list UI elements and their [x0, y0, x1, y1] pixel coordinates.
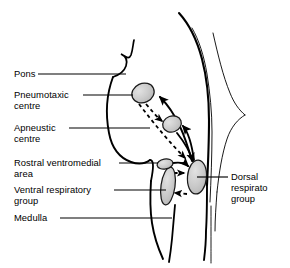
pneumotaxic-centre-shape [129, 80, 158, 107]
nuclei-group [129, 80, 208, 206]
brainstem-outline-group [107, 13, 245, 263]
label-ventral-line2: group [14, 195, 38, 207]
spinal-canal-left-outline [204, 185, 207, 260]
label-apneustic-line1: Apneustic [14, 122, 56, 134]
arrow-dorsal-to-ventral [175, 193, 187, 194]
label-pons: Pons [14, 68, 36, 80]
label-pneumotaxic-line1: Pneumotaxic [14, 89, 69, 101]
arrow-rostral-to-dorsal-solid [173, 163, 188, 166]
label-pneumotaxic-line2: centre [14, 100, 40, 112]
cerebellum-upper-outline [213, 33, 245, 115]
diagram-canvas [0, 0, 290, 268]
label-apneustic-line2: centre [14, 133, 40, 145]
arrow-pneumotaxic-to-apneustic [146, 104, 162, 121]
label-dorsal-line1: Dorsal [231, 171, 258, 183]
arrow-pneumotaxic-to-dorsal [139, 104, 185, 158]
label-rostral-line1: Rostral ventromedial [14, 157, 101, 169]
label-medulla: Medulla [14, 212, 47, 224]
cerebellum-tail-outline [215, 192, 217, 231]
medulla-ventral-outline [169, 205, 175, 262]
solid-connections-group [160, 97, 194, 166]
label-ventral-line1: Ventral respiratory [14, 184, 91, 196]
midbrain-notch-outline [113, 40, 134, 77]
label-dorsal-line2: respirato [231, 182, 267, 194]
label-rostral-line2: area [14, 168, 33, 180]
respiratory-centres-diagram: Pons Pneumotaxic centre Apneustic centre… [0, 0, 290, 268]
apneustic-centre-shape [160, 113, 183, 135]
ventral-respiratory-group-shape [158, 166, 177, 206]
label-dorsal-line3: group [231, 193, 255, 205]
